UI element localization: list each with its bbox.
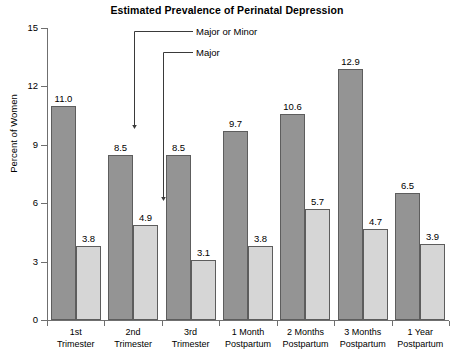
bar-value-label: 8.5 — [102, 142, 139, 153]
bar-major-or-minor — [395, 193, 420, 320]
y-axis-tick — [41, 145, 47, 146]
bar-value-label: 9.7 — [217, 118, 254, 129]
y-axis-tick — [41, 203, 47, 204]
y-axis-tick — [41, 28, 47, 29]
x-axis-category-line: 3rd — [162, 327, 219, 339]
bar-major-or-minor — [166, 155, 191, 320]
x-axis-category-line: Trimester — [104, 339, 161, 351]
bar-value-label: 3.9 — [414, 231, 451, 242]
bar-major-or-minor — [338, 69, 363, 320]
bar-major-or-minor — [108, 155, 133, 320]
x-axis-category-line: Postpartum — [334, 339, 391, 351]
x-axis-category-label: 1 YearPostpartum — [392, 327, 449, 350]
x-axis-category-label: 2ndTrimester — [104, 327, 161, 350]
y-axis-tick-label: 0 — [0, 314, 38, 325]
x-axis-tick — [47, 321, 48, 326]
bar-value-label: 10.6 — [274, 101, 311, 112]
bar-value-label: 3.8 — [242, 233, 279, 244]
x-axis-category-line: Postpartum — [219, 339, 276, 351]
x-axis-category-line: Trimester — [162, 339, 219, 351]
chart-container: Estimated Prevalence of Perinatal Depres… — [0, 0, 454, 355]
x-axis-category-line: Trimester — [47, 339, 104, 351]
bar-value-label: 6.5 — [389, 180, 426, 191]
x-axis-line — [47, 320, 449, 321]
y-axis-tick-label: 3 — [0, 256, 38, 267]
bar-major-or-minor — [223, 131, 248, 320]
bar-major — [191, 260, 216, 320]
x-axis-category-line: Postpartum — [392, 339, 449, 351]
bar-value-label: 3.8 — [70, 233, 107, 244]
bar-value-label: 5.7 — [299, 196, 336, 207]
x-axis-category-line: 2 Months — [277, 327, 334, 339]
bar-value-label: 4.9 — [127, 212, 164, 223]
x-axis-category-line: 1 Month — [219, 327, 276, 339]
annotation-label-major: Major — [196, 47, 220, 58]
bar-major-or-minor — [51, 106, 76, 320]
x-axis-tick — [219, 321, 220, 326]
bar-major — [420, 244, 445, 320]
x-axis-category-label: 1 MonthPostpartum — [219, 327, 276, 350]
x-axis-tick — [162, 321, 163, 326]
bar-value-label: 11.0 — [45, 93, 82, 104]
bar-major — [133, 225, 158, 320]
x-axis-tick — [449, 321, 450, 326]
x-axis-category-label: 3 MonthsPostpartum — [334, 327, 391, 350]
y-axis-tick-label: 12 — [0, 80, 38, 91]
bar-value-label: 3.1 — [185, 247, 222, 258]
x-axis-tick — [277, 321, 278, 326]
bar-value-label: 12.9 — [332, 56, 369, 67]
y-axis-tick-label: 6 — [0, 197, 38, 208]
y-axis-tick-label: 9 — [0, 139, 38, 150]
x-axis-category-line: 2nd — [104, 327, 161, 339]
y-axis-tick — [41, 262, 47, 263]
x-axis-category-line: 3 Months — [334, 327, 391, 339]
bar-major — [305, 209, 330, 320]
bar-value-label: 8.5 — [160, 142, 197, 153]
x-axis-category-label: 3rdTrimester — [162, 327, 219, 350]
chart-title: Estimated Prevalence of Perinatal Depres… — [0, 4, 454, 16]
x-axis-category-label: 1stTrimester — [47, 327, 104, 350]
y-axis-line — [47, 28, 48, 321]
x-axis-tick — [392, 321, 393, 326]
bar-major — [76, 246, 101, 320]
annotation-label-major-or-minor: Major or Minor — [196, 26, 257, 37]
x-axis-category-line: Postpartum — [277, 339, 334, 351]
bar-major — [248, 246, 273, 320]
y-axis-tick — [41, 86, 47, 87]
x-axis-category-label: 2 MonthsPostpartum — [277, 327, 334, 350]
x-axis-category-line: 1 Year — [392, 327, 449, 339]
bar-major — [363, 229, 388, 320]
y-axis-tick-label: 15 — [0, 22, 38, 33]
bar-major-or-minor — [280, 114, 305, 320]
y-axis-label: Percent of Women — [8, 79, 19, 189]
bar-value-label: 4.7 — [357, 216, 394, 227]
x-axis-tick — [334, 321, 335, 326]
x-axis-tick — [104, 321, 105, 326]
x-axis-category-line: 1st — [47, 327, 104, 339]
